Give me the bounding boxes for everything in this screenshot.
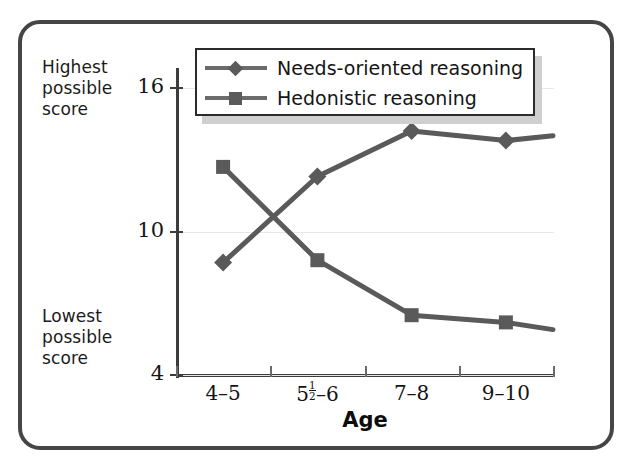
x-tick [176, 366, 178, 377]
x-tick-label: 512–6 [270, 381, 364, 406]
legend-entry-hedonistic: Hedonistic reasoning [205, 83, 525, 113]
y-tick [170, 231, 183, 233]
x-tick-label: 9–10 [459, 381, 553, 405]
y-axis-line [176, 68, 179, 378]
legend-label-needs-oriented: Needs-oriented reasoning [277, 57, 523, 79]
x-tick [553, 366, 555, 377]
x-axis-title: Age [176, 408, 554, 432]
y-tick-label: 4 [120, 361, 164, 385]
y-tick-label: 10 [120, 218, 164, 242]
x-tick [365, 366, 367, 377]
gridline [179, 375, 554, 376]
y-tick-label: 16 [120, 74, 164, 98]
legend-entry-needs-oriented: Needs-oriented reasoning [205, 53, 525, 83]
x-tick-label: 7–8 [365, 381, 459, 405]
legend-label-hedonistic: Hedonistic reasoning [277, 87, 477, 109]
gridline [179, 232, 554, 233]
highest-score-annotation: Highest possible score [42, 57, 112, 120]
x-tick-label: 4–5 [176, 381, 270, 405]
x-tick [459, 366, 461, 377]
lowest-score-annotation: Lowest possible score [42, 306, 112, 369]
square-marker-icon [205, 89, 267, 107]
x-tick [270, 366, 272, 377]
y-tick [170, 87, 183, 89]
chart-figure: Highest possible score Lowest possible s… [0, 0, 637, 475]
chart-legend: Needs-oriented reasoning Hedonistic reas… [195, 48, 535, 116]
diamond-marker-icon [205, 59, 267, 77]
